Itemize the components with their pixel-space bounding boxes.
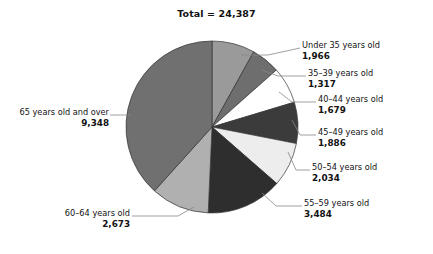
callout-under-35: Under 35 years old 1,966 — [302, 40, 380, 61]
callout-value-40-44: 1,679 — [318, 105, 383, 116]
callout-label-55-59: 55–59 years old — [304, 198, 369, 209]
callout-label-45-49: 45–49 years old — [318, 127, 383, 138]
callout-50-54: 50–54 years old 2,034 — [312, 162, 377, 183]
pie-chart-figure: Total = 24,387 Under 35 years old 1,966 … — [0, 0, 433, 254]
callout-label-40-44: 40–44 years old — [318, 94, 383, 105]
callout-value-65-over: 9,348 — [19, 118, 109, 129]
callout-label-50-54: 50–54 years old — [312, 162, 377, 173]
callout-label-60-64: 60–64 years old — [65, 208, 130, 219]
callout-value-35-39: 1,317 — [308, 79, 373, 90]
callout-40-44: 40–44 years old 1,679 — [318, 94, 383, 115]
callout-value-45-49: 1,886 — [318, 138, 383, 149]
callout-value-50-54: 2,034 — [312, 173, 377, 184]
callout-55-59: 55–59 years old 3,484 — [304, 198, 369, 219]
callout-label-65-over: 65 years old and over — [19, 107, 109, 118]
callout-label-35-39: 35–39 years old — [308, 68, 373, 79]
callout-value-55-59: 3,484 — [304, 209, 369, 220]
callout-value-under-35: 1,966 — [302, 51, 380, 62]
callout-label-under-35: Under 35 years old — [302, 40, 380, 51]
pie-slices-group — [126, 41, 298, 213]
callout-value-60-64: 2,673 — [65, 219, 130, 230]
leader-line-55-59 — [262, 193, 302, 206]
callout-65-over: 65 years old and over 9,348 — [19, 107, 109, 128]
callout-60-64: 60–64 years old 2,673 — [65, 208, 130, 229]
callout-45-49: 45–49 years old 1,886 — [318, 127, 383, 148]
callout-35-39: 35–39 years old 1,317 — [308, 68, 373, 89]
